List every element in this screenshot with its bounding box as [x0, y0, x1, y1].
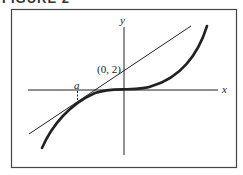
- intercept-label: (0, 2): [97, 63, 121, 76]
- point-a-label: a: [74, 79, 80, 91]
- x-axis-label: x: [221, 83, 227, 95]
- y-axis-label: y: [119, 14, 125, 26]
- figure-diagram: a (0, 2) x y: [0, 0, 243, 175]
